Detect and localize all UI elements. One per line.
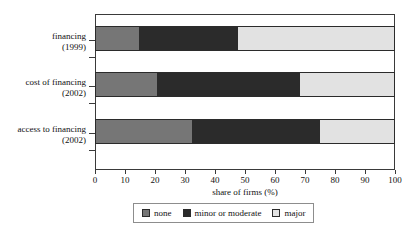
bar-segment-major — [238, 26, 395, 51]
y-axis-label-line2: (1999) — [0, 42, 86, 53]
x-axis-tick-label: 50 — [230, 174, 260, 186]
x-axis-tick-label: 30 — [170, 174, 200, 186]
y-axis-label-line1: financing — [52, 31, 86, 41]
bar-row — [95, 119, 395, 144]
legend-swatch-icon — [142, 209, 150, 217]
x-axis-tick-label: 100 — [380, 174, 410, 186]
legend-item-none: none — [142, 208, 172, 219]
bar-row — [95, 26, 395, 51]
legend-label: minor or moderate — [195, 208, 262, 219]
x-axis-tick-label: 60 — [260, 174, 290, 186]
x-axis-tick-label: 10 — [110, 174, 140, 186]
y-axis-label-line1: cost of financing — [26, 77, 86, 87]
legend-swatch-icon — [183, 209, 191, 217]
y-axis-label-line2: (2002) — [0, 135, 86, 146]
bar-segment-none — [95, 72, 157, 97]
bars-layer — [95, 14, 395, 170]
legend-swatch-icon — [272, 209, 280, 217]
x-axis-tick-label: 20 — [140, 174, 170, 186]
y-axis-label-line1: access to financing — [18, 124, 86, 134]
y-axis-label-access-to-financing-2002: access to financing (2002) — [0, 124, 86, 146]
y-axis-label-line2: (2002) — [0, 88, 86, 99]
chart-legend: none minor or moderate major — [133, 203, 314, 223]
bar-segment-none — [95, 119, 192, 144]
legend-item-major: major — [272, 208, 305, 219]
x-axis-tick-label: 90 — [350, 174, 380, 186]
y-axis-label-cost-of-financing-2002: cost of financing (2002) — [0, 77, 86, 99]
x-axis-tick-label: 40 — [200, 174, 230, 186]
stacked-bar-chart: financing (1999) cost of financing (2002… — [0, 0, 413, 233]
bar-segment-major — [320, 119, 395, 144]
legend-item-minor-or-moderate: minor or moderate — [183, 208, 262, 219]
x-axis-tick-label: 70 — [290, 174, 320, 186]
bar-segment-minor-or-moderate — [157, 72, 300, 97]
bar-row — [95, 72, 395, 97]
bar-segment-minor-or-moderate — [192, 119, 320, 144]
legend-label: none — [154, 208, 172, 219]
x-axis-tick-label: 80 — [320, 174, 350, 186]
legend-label: major — [284, 208, 305, 219]
y-axis-category-labels: financing (1999) cost of financing (2002… — [0, 14, 86, 170]
bar-segment-minor-or-moderate — [139, 26, 238, 51]
x-axis-tick-label: 0 — [80, 174, 110, 186]
bar-segment-major — [300, 72, 395, 97]
x-axis-title: share of firms (%) — [95, 186, 395, 198]
bar-segment-none — [95, 26, 139, 51]
y-axis-label-financing-1999: financing (1999) — [0, 31, 86, 53]
